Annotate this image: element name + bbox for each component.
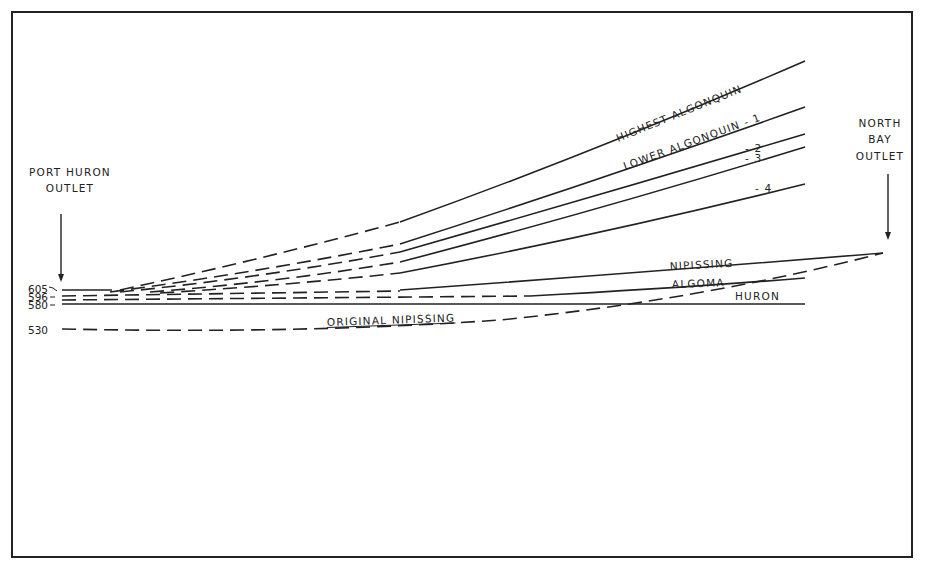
north-bay-label-line1: NORTH [859,117,902,129]
svg-text:LOWER ALGONQUIN - 1: LOWER ALGONQUIN - 1 [622,111,763,172]
down-arrow-icon [58,214,64,282]
north-bay-label-line2: BAY [868,133,892,145]
svg-text:- 3: - 3 [745,152,762,164]
shoreline-diagram: PORT HURON OUTLET NORTH BAY OUTLET 605 5… [0,0,929,573]
port-huron-label-line2: OUTLET [46,182,94,194]
svg-text:HURON: HURON [735,290,780,302]
north-bay-label-line3: OUTLET [856,150,904,162]
shoreline-highest-algonquin: HIGHEST ALGONQUIN [62,61,805,290]
down-arrow-icon [885,174,891,240]
svg-text:- 4: - 4 [755,182,772,194]
elevation-label: 530 [28,324,48,336]
svg-text:ORIGINAL NIPISSING: ORIGINAL NIPISSING [327,312,456,328]
elevation-label: 580 [28,299,48,311]
svg-text:NIPISSING: NIPISSING [669,257,733,272]
port-huron-label-line1: PORT HURON [29,166,111,178]
svg-text:ALGOMA: ALGOMA [672,276,725,290]
